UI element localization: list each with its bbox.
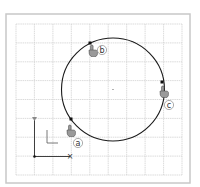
point-marker <box>89 42 92 45</box>
y-axis-arrow-icon <box>32 117 37 121</box>
point-marker <box>70 118 73 121</box>
hand-cursor-icon <box>89 45 98 57</box>
palm <box>67 130 76 137</box>
diagram-canvas: × abc <box>0 0 200 187</box>
x-axis-end-marker-icon: × <box>67 152 74 161</box>
hand-cursor-icon <box>67 125 76 137</box>
point-marker <box>161 81 164 84</box>
palm <box>89 50 98 57</box>
point-label-b: b <box>99 46 104 55</box>
pick-point-a: a <box>67 118 83 148</box>
three-point-circle-diagram: × abc <box>0 0 200 187</box>
pick-point-b: b <box>89 42 107 57</box>
palm <box>160 91 169 98</box>
circle-curve <box>62 38 165 141</box>
point-label-a: a <box>76 139 81 148</box>
hand-cursor-icon <box>160 86 169 98</box>
outer-frame-border <box>6 14 190 183</box>
origin-dot <box>33 155 36 158</box>
circle-center-dot <box>112 89 113 90</box>
point-label-c: c <box>167 101 171 110</box>
outer-frame <box>6 14 190 183</box>
